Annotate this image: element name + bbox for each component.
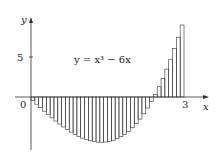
riemann-rectangle [69,97,73,132]
riemann-rectangle [58,97,62,124]
riemann-rectangle [150,97,154,102]
x-axis-arrow-icon [203,95,209,99]
x-tick-label-3: 3 [182,99,188,110]
riemann-rectangle [73,97,77,134]
riemann-rectangle [157,87,161,97]
riemann-rectangle [146,97,150,108]
riemann-rectangle [31,97,35,101]
riemann-rectangle [35,97,39,104]
riemann-rectangle [92,97,96,142]
riemann-rectangle [176,37,180,97]
riemann-rectangle [115,97,119,139]
riemann-rectangle [39,97,43,108]
y-tick-label-5: 5 [17,52,23,63]
riemann-rectangle [138,97,142,119]
riemann-rectangle [130,97,134,128]
x-axis-label: x [203,101,209,112]
riemann-rectangle [127,97,131,131]
riemann-rectangle [161,78,165,97]
riemann-rectangle [119,97,123,137]
riemann-rectangle [123,97,127,134]
riemann-rectangle [54,97,58,121]
riemann-rectangles [31,25,184,142]
plot-area: y x 5 0 3 y = x³ − 6x [0,0,218,156]
riemann-rectangle [142,97,146,114]
riemann-rectangle [50,97,54,118]
riemann-rectangle [81,97,85,138]
riemann-rectangle [100,97,104,142]
y-axis-label: y [20,14,27,25]
riemann-rectangle [169,59,173,97]
y-axis-arrow-icon [29,17,33,23]
riemann-rectangle [88,97,92,141]
riemann-rectangle [77,97,81,136]
x-tick-label-0: 0 [20,99,26,110]
riemann-rectangle [108,97,112,141]
riemann-rectangle [104,97,108,142]
riemann-rectangle [165,69,169,97]
riemann-rectangle [65,97,69,130]
riemann-rectangle [62,97,66,127]
riemann-sum-chart: y x 5 0 3 y = x³ − 6x [0,0,218,156]
riemann-rectangle [85,97,89,140]
riemann-rectangle [46,97,50,115]
riemann-rectangle [180,25,184,97]
riemann-rectangle [111,97,115,140]
riemann-rectangle [42,97,46,111]
riemann-rectangle [134,97,138,124]
riemann-rectangle [173,49,177,97]
function-label: y = x³ − 6x [73,54,131,65]
riemann-rectangle [96,97,100,142]
